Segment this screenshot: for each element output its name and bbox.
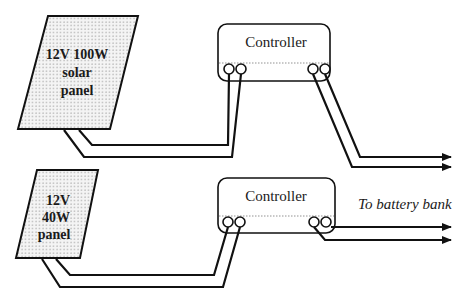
wire-out1-b (325, 74, 451, 157)
wire-out1-a (313, 74, 451, 167)
panel-label-line-2: solar (62, 65, 92, 80)
panel-label-line-2: 40W (42, 210, 70, 225)
terminal-in-1 (223, 217, 233, 227)
wiring-diagram: 12V 100W solar panel Controller 12V 40W … (0, 0, 469, 303)
system-2: 12V 40W panel Controller (16, 170, 451, 287)
controller-2: Controller (218, 178, 335, 233)
controller-label: Controller (245, 34, 307, 50)
terminal-in-1 (224, 64, 234, 74)
panel-label-line-3: panel (61, 83, 94, 98)
terminal-out-2 (321, 217, 331, 227)
panel-label-line-1: 12V 100W (46, 47, 108, 62)
terminal-out-1 (308, 64, 318, 74)
battery-bank-label: To battery bank (358, 196, 452, 212)
terminal-out-1 (309, 217, 319, 227)
terminal-in-2 (236, 64, 246, 74)
controller-label: Controller (245, 188, 307, 204)
system-1: 12V 100W solar panel Controller (18, 16, 451, 167)
panel-label-line-3: panel (38, 227, 71, 242)
terminal-out-2 (320, 64, 330, 74)
controller-1: Controller (218, 24, 330, 81)
terminal-in-2 (235, 217, 245, 227)
panel-label-line-1: 12V (46, 193, 70, 208)
wire-out2-b (314, 227, 451, 240)
